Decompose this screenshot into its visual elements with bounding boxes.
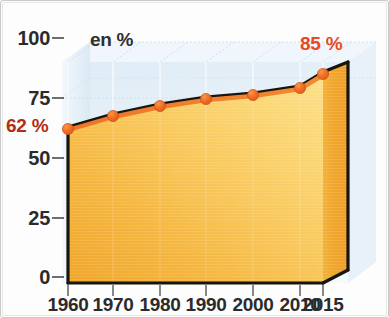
y-axis-label-50: 50: [0, 147, 50, 170]
end-value-annotation: 85 %: [300, 33, 343, 55]
data-point-1970: [107, 110, 118, 121]
data-point-1990: [200, 93, 211, 104]
x-axis-label-2015: 2015: [281, 294, 365, 316]
y-axis-label-75: 75: [0, 87, 50, 110]
data-point-1960: [62, 123, 73, 134]
chart-container: 100 75 50 25 0 1960 1970 1980 1990 2000 …: [0, 0, 389, 318]
data-point-2010: [294, 82, 305, 93]
data-point-1980: [154, 100, 165, 111]
data-point-2000: [247, 89, 258, 100]
y-axis-label-25: 25: [0, 207, 50, 230]
area-side-face: [323, 62, 348, 283]
y-axis-label-0: 0: [0, 266, 50, 289]
unit-label: en %: [90, 29, 133, 51]
y-axis-label-100: 100: [0, 27, 50, 50]
start-value-annotation: 62 %: [6, 115, 49, 137]
data-point-2015: [317, 68, 328, 79]
